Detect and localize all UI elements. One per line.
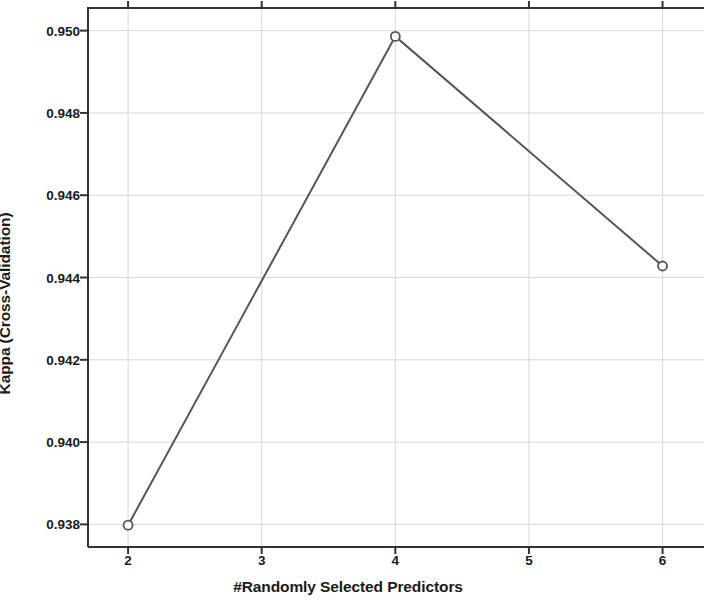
x-axis-title: #Randomly Selected Predictors: [40, 578, 656, 596]
plot-area: [0, 0, 704, 607]
data-point-marker: [124, 521, 133, 530]
data-point-marker: [658, 261, 667, 270]
chart-figure: Kappa (Cross-Validation) 0.9380.9400.942…: [0, 0, 704, 607]
data-point-marker: [391, 32, 400, 41]
gridlines: [88, 8, 704, 547]
